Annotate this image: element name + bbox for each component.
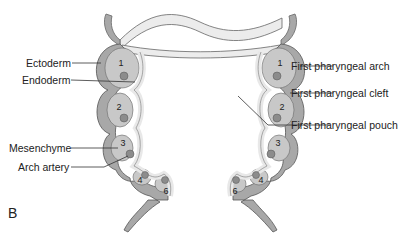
label-endoderm: Endoderm: [22, 74, 70, 86]
right-arch-number-2: 2: [279, 102, 284, 112]
label-ectoderm: Ectoderm: [26, 57, 71, 69]
right-arch-number-3: 3: [275, 138, 280, 148]
label-arch-artery: Arch artery: [18, 161, 69, 173]
label-first-pharyngeal-pouch: First pharyngeal pouch: [291, 119, 398, 131]
label-mesenchyme: Mesenchyme: [9, 142, 71, 154]
left-arch-number-6: 6: [163, 186, 168, 196]
left-arch-chain: [96, 44, 171, 232]
pharynx-roof: [120, 15, 282, 58]
right-arch-number-4: 4: [258, 175, 263, 185]
left-ectoderm-tip: [104, 14, 120, 46]
label-first-pharyngeal-cleft: First pharyngeal cleft: [291, 87, 388, 99]
right-arch-chain: [230, 44, 305, 232]
left-arch-number-1: 1: [118, 58, 123, 68]
right-arch-number-1: 1: [277, 58, 282, 68]
right-ectoderm-tip: [281, 14, 297, 46]
left-arch-number-3: 3: [120, 138, 125, 148]
left-arch-number-2: 2: [116, 102, 121, 112]
right-arch-number-6: 6: [232, 186, 237, 196]
left-arch-number-4: 4: [137, 175, 142, 185]
label-first-pharyngeal-arch: First pharyngeal arch: [291, 60, 390, 72]
pharyngeal-arch-diagram: 1 2 3 4 6 1 2 3 4 6: [0, 0, 401, 233]
panel-label: B: [8, 205, 17, 221]
